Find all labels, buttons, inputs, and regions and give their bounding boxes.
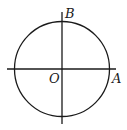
- diagram-canvas: O A B: [0, 0, 127, 130]
- label-origin: O: [49, 71, 60, 86]
- circle-diagram: O A B: [0, 0, 127, 130]
- label-point-a: A: [111, 71, 121, 86]
- label-point-b: B: [64, 6, 75, 21]
